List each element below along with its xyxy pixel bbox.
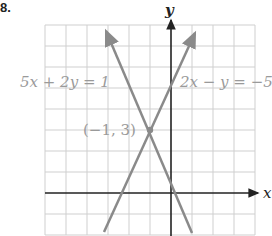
intersection-point bbox=[147, 127, 153, 133]
coordinate-plane: x y 5x + 2y = 1 2x − y = −5 (−1, 3) bbox=[0, 0, 272, 236]
x-axis-label: x bbox=[263, 184, 272, 202]
y-axis-label: y bbox=[164, 1, 175, 19]
intersection-label: (−1, 3) bbox=[83, 121, 136, 139]
line-1-label: 5x + 2y = 1 bbox=[20, 73, 110, 91]
line-2-label: 2x − y = −5 bbox=[179, 73, 272, 91]
